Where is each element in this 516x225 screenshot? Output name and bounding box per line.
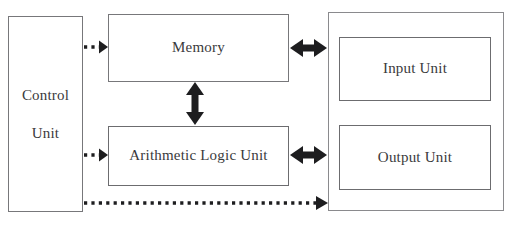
output-unit-label: Output Unit	[378, 147, 452, 169]
input-unit-label: Input Unit	[383, 58, 447, 80]
input-unit-block: Input Unit	[339, 37, 491, 101]
alu-to-io-connector-icon	[290, 146, 327, 164]
memory-block: Memory	[108, 14, 289, 82]
control-unit-label: Control Unit	[22, 76, 69, 153]
memory-to-io-connector-icon	[290, 39, 327, 57]
control-to-io-connector-icon	[84, 196, 328, 210]
control-unit-block: Control Unit	[8, 16, 83, 212]
control-to-alu-connector-icon	[84, 149, 108, 162]
output-unit-block: Output Unit	[339, 125, 491, 190]
arithmetic-logic-unit-block: Arithmetic Logic Unit	[108, 126, 289, 186]
arithmetic-logic-unit-label: Arithmetic Logic Unit	[129, 145, 267, 167]
memory-label: Memory	[172, 37, 225, 59]
memory-to-alu-connector-icon	[186, 82, 204, 125]
block-diagram: Control Unit Memory Arithmetic Logic Uni…	[0, 0, 516, 225]
control-to-memory-connector-icon	[84, 41, 108, 54]
